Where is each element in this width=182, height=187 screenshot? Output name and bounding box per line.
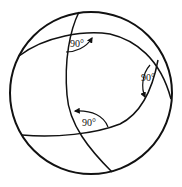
angle-label-top: 90° xyxy=(70,38,84,49)
angle-label-bottom: 90° xyxy=(82,117,96,128)
diagram-canvas: 90° 90° 90° xyxy=(0,0,182,187)
great-circle-meridian xyxy=(66,12,112,172)
great-circle-upper xyxy=(19,33,171,99)
spherical-triangle-diagram: 90° 90° 90° xyxy=(0,0,182,187)
angle-label-right: 90° xyxy=(141,72,155,83)
